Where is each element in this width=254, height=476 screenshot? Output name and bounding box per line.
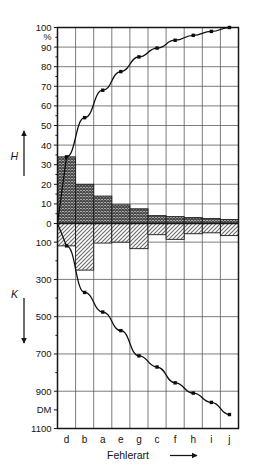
pareto-curve-marker-a xyxy=(101,89,104,92)
category-label-e: e xyxy=(118,434,124,445)
category-label-h: h xyxy=(190,434,196,445)
chart-canvas: 0102030405060708090100%10030050070090011… xyxy=(0,0,254,476)
top-axis-name: H xyxy=(10,150,18,162)
tick-label-h-10: 10 xyxy=(41,198,52,209)
x-axis-title: Fehlerart xyxy=(107,449,149,461)
axis-unit-dm: DM xyxy=(37,404,52,415)
cost-curve-marker-c xyxy=(155,365,158,368)
frequency-bar-g xyxy=(130,209,148,224)
tick-label-k-500: 500 xyxy=(36,311,52,322)
category-label-a: a xyxy=(100,434,106,445)
pareto-curve-marker-f xyxy=(173,39,176,42)
cost-bar-j xyxy=(220,224,238,236)
pareto-cost-chart: 0102030405060708090100%10030050070090011… xyxy=(0,0,254,476)
frequency-bar-b xyxy=(76,184,94,223)
cost-bar-d xyxy=(58,224,76,246)
frequency-bar-a xyxy=(94,196,112,223)
cost-curve-marker-g xyxy=(137,354,140,357)
cost-bar-h xyxy=(184,224,202,234)
frequency-bar-e xyxy=(112,205,130,224)
frequency-bar-f xyxy=(166,217,184,224)
tick-label-k-700: 700 xyxy=(36,348,52,359)
bottom-axis-name: K xyxy=(11,288,19,300)
tick-label-h-0: 0 xyxy=(46,218,51,229)
cost-bar-b xyxy=(76,224,94,271)
cost-curve-marker-h xyxy=(192,391,195,394)
pareto-curve-marker-j xyxy=(228,26,231,29)
pareto-curve-marker-g xyxy=(137,55,140,58)
tick-label-k-900: 900 xyxy=(36,386,52,397)
category-label-i: i xyxy=(210,434,212,445)
frequency-bar-d xyxy=(58,157,76,224)
pareto-curve-marker-d xyxy=(65,155,68,158)
cost-bar-a xyxy=(94,224,112,244)
cost-curve-marker-a xyxy=(101,310,104,313)
cost-bar-g xyxy=(130,224,148,249)
frequency-bar-i xyxy=(202,219,220,224)
cost-bar-i xyxy=(202,224,220,233)
axis-unit-percent: % xyxy=(43,32,51,42)
tick-label-h-20: 20 xyxy=(41,179,52,190)
pareto-curve-marker-b xyxy=(83,116,86,119)
category-label-f: f xyxy=(174,434,177,445)
category-label-g: g xyxy=(136,434,142,445)
cost-curve-marker-b xyxy=(83,291,86,294)
cost-bar-f xyxy=(166,224,184,240)
cost-curve-marker-d xyxy=(65,244,68,247)
category-label-c: c xyxy=(155,434,160,445)
category-label-j: j xyxy=(227,434,230,445)
cost-bar-c xyxy=(148,224,166,235)
tick-label-h-70: 70 xyxy=(41,81,52,92)
pareto-curve-marker-c xyxy=(155,46,158,49)
pareto-curve-marker-h xyxy=(192,34,195,37)
cost-bar-e xyxy=(112,224,130,243)
tick-label-h-30: 30 xyxy=(41,159,52,170)
tick-label-h-90: 90 xyxy=(41,42,52,53)
frequency-bar-c xyxy=(148,216,166,224)
tick-label-h-80: 80 xyxy=(41,61,52,72)
tick-label-h-60: 60 xyxy=(41,100,52,111)
cost-curve-marker-f xyxy=(173,381,176,384)
cost-curve-marker-i xyxy=(210,401,213,404)
tick-label-k-1100: 1100 xyxy=(31,423,51,434)
cost-curve-marker-j xyxy=(228,413,231,416)
tick-label-h-50: 50 xyxy=(41,120,52,131)
pareto-curve-marker-i xyxy=(210,30,213,33)
tick-label-k-100: 100 xyxy=(36,237,52,248)
category-label-d: d xyxy=(64,434,70,445)
pareto-curve-marker-e xyxy=(119,70,122,73)
category-label-b: b xyxy=(82,434,88,445)
cost-curve-marker-e xyxy=(119,329,122,332)
tick-label-k-300: 300 xyxy=(36,274,52,285)
frequency-bar-h xyxy=(184,218,202,224)
tick-label-h-40: 40 xyxy=(41,140,52,151)
